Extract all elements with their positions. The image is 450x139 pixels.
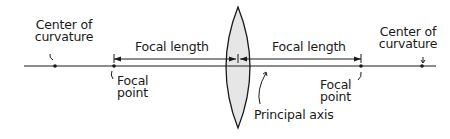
center-of-curvature-left-label: Center of curvature: [28, 19, 100, 43]
center-of-curvature-right-pointer-icon: [421, 57, 425, 63]
focal-point-left-pointer-icon: [111, 71, 113, 79]
center-of-curvature-left-dot: [53, 64, 57, 68]
label-line: curvature: [368, 38, 448, 50]
center-of-curvature-right-label: Center of curvature: [368, 26, 448, 50]
focal-point-right-pointer-icon: [358, 72, 361, 80]
focal-length-right-label: Focal length: [272, 41, 346, 53]
focal-length-left-label: Focal length: [135, 41, 209, 53]
focal-point-right-dot: [359, 64, 363, 68]
label-line: point: [320, 91, 351, 103]
focal-point-left-label: Focal point: [117, 75, 148, 99]
center-of-curvature-left-pointer-icon: [50, 54, 53, 60]
label-line: curvature: [28, 31, 100, 43]
principal-axis-pointer-icon: [259, 72, 267, 104]
focal-length-left-dimension: [114, 54, 236, 63]
focal-length-right-dimension: [240, 54, 361, 63]
principal-axis-label: Principal axis: [254, 109, 333, 121]
label-line: point: [117, 87, 148, 99]
focal-point-right-label: Focal point: [320, 79, 351, 103]
convex-lens: [226, 7, 250, 128]
focal-point-left-dot: [112, 64, 116, 68]
center-of-curvature-right-dot: [420, 64, 424, 68]
